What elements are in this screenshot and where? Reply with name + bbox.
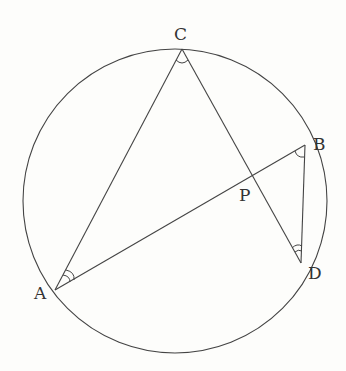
segment-AB xyxy=(55,145,305,290)
label-A: A xyxy=(34,285,46,302)
label-B: B xyxy=(313,136,326,153)
angle-mark-A-2 xyxy=(66,270,74,280)
angle-mark-C xyxy=(176,60,188,63)
circle-diagram xyxy=(0,0,346,371)
label-C: C xyxy=(174,26,187,43)
segment-CD xyxy=(182,49,301,263)
angle-mark-B xyxy=(295,151,304,157)
circumcircle xyxy=(23,49,327,353)
label-P: P xyxy=(239,187,250,204)
diagram-canvas: C B P D A xyxy=(0,0,346,371)
angle-mark-D-2 xyxy=(292,245,302,248)
label-D: D xyxy=(308,265,322,282)
angle-mark-A-1 xyxy=(63,275,70,282)
segment-AC xyxy=(55,49,182,290)
